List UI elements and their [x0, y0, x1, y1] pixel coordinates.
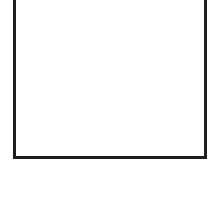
empty-panel-frame — [13, 0, 207, 159]
empty-panel-content — [16, 0, 204, 156]
